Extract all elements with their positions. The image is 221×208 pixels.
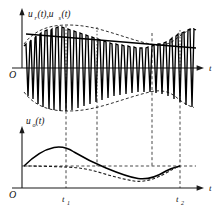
upper-x-axis-label: t xyxy=(209,63,212,73)
upper-label-mid: (t),u xyxy=(38,9,54,20)
tick-label-t1: t 1 xyxy=(62,194,70,206)
upper-label-end: (t) xyxy=(62,9,71,20)
upper-label-u1: u xyxy=(28,9,33,19)
lower-x-axis xyxy=(12,185,204,190)
signal-waveform-figure: u r (t),u s (t) O t xyxy=(0,0,221,208)
upper-y-axis-arrow xyxy=(19,8,24,15)
figure-canvas: u r (t),u s (t) O t xyxy=(0,0,221,208)
tick-t2-sub: 2 xyxy=(181,200,184,206)
lower-label-end: (t) xyxy=(36,116,45,127)
tick-t2-main: t xyxy=(176,194,179,204)
control-signal-solid xyxy=(24,147,180,179)
lower-plot: u o (t) O t t 1 t 2 xyxy=(9,116,212,206)
lower-x-axis-label: t xyxy=(209,183,212,193)
tick-t1-sub: 1 xyxy=(67,200,70,206)
upper-envelope-top xyxy=(24,25,194,45)
upper-origin-label: O xyxy=(9,69,16,80)
lower-y-axis-arrow xyxy=(19,126,24,133)
lower-origin-label: O xyxy=(9,189,16,200)
control-signal-dashed xyxy=(24,166,180,181)
carrier-waveform xyxy=(24,27,196,111)
upper-x-axis-arrow xyxy=(197,65,204,70)
upper-y-axis xyxy=(19,8,24,68)
lower-y-axis xyxy=(19,126,24,188)
tick-t1-main: t xyxy=(62,194,65,204)
lower-y-axis-label: u o (t) xyxy=(26,116,44,128)
upper-plot: u r (t),u s (t) O t xyxy=(9,8,212,111)
lower-x-axis-arrow xyxy=(197,185,204,190)
lower-label-u: u xyxy=(26,116,31,126)
upper-y-axis-label: u r (t),u s (t) xyxy=(28,9,70,21)
tick-label-t2: t 2 xyxy=(176,194,184,206)
